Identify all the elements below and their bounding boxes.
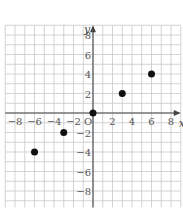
y-tick-label: −8 (76, 186, 91, 197)
y-tick-label: −2 (76, 128, 91, 139)
y-tick-label: 2 (85, 89, 91, 100)
y-tick-label: −6 (76, 167, 91, 178)
y-tick-label: 4 (85, 69, 91, 80)
x-axis-arrow-icon (174, 110, 181, 116)
y-tick-label: 6 (85, 50, 91, 61)
x-tick-label: −8 (8, 116, 23, 127)
x-tick-label: −6 (27, 116, 42, 127)
data-point (60, 129, 67, 136)
origin-label: O (84, 116, 92, 127)
y-axis-label: y (83, 23, 91, 36)
x-tick-label: 8 (168, 116, 174, 127)
x-tick-label: 4 (129, 116, 135, 127)
y-tick-label: −4 (76, 147, 91, 158)
data-point (31, 149, 38, 156)
x-tick-label: 6 (148, 116, 154, 127)
x-tick-label: −4 (47, 116, 62, 127)
x-tick-label: 2 (109, 116, 115, 127)
x-axis-label: x (179, 117, 183, 130)
data-point (119, 90, 126, 97)
x-tick-label: −2 (66, 116, 81, 127)
scatter-plot: −8−6−4−224688642−2−4−6−8 x y O (0, 0, 183, 218)
data-point (148, 71, 155, 78)
